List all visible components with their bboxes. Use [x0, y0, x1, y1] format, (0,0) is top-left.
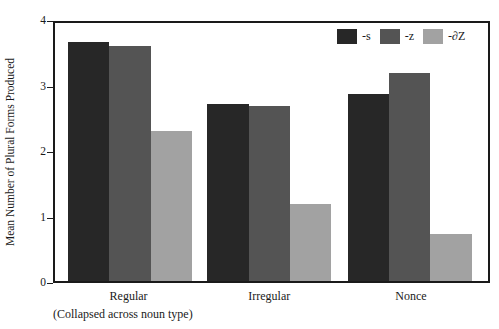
x-tick-label: Nonce [348, 288, 473, 304]
y-axis-tick-labels: 01234 [24, 0, 46, 329]
y-tick-label: 4 [26, 15, 46, 27]
y-tick-label: 0 [26, 277, 46, 289]
bar [430, 234, 471, 281]
bar-chart: Mean Number of Plural Forms Produced 012… [0, 0, 499, 329]
bar-group [348, 23, 472, 281]
bar [68, 42, 109, 281]
bar [207, 104, 248, 281]
y-axis-title: Mean Number of Plural Forms Produced [2, 21, 20, 283]
legend-item: -s [337, 29, 371, 44]
legend-label: -∂Z [448, 29, 465, 44]
bar-group [207, 23, 331, 281]
bar-group [68, 23, 192, 281]
y-tick-label: 3 [26, 81, 46, 93]
y-tick-mark [47, 87, 53, 88]
bar [109, 46, 150, 281]
legend-label: -s [362, 29, 371, 44]
y-tick-mark [47, 152, 53, 153]
x-axis-note: (Collapsed across noun type) [53, 306, 193, 322]
bar [151, 131, 192, 281]
bar [389, 73, 430, 281]
bar [249, 106, 290, 281]
legend-swatch [380, 29, 400, 44]
plot-area [53, 21, 490, 283]
y-axis-title-text: Mean Number of Plural Forms Produced [5, 58, 17, 246]
x-axis-tick-labels: RegularIrregularNonce [53, 288, 490, 306]
legend-item: -z [380, 29, 414, 44]
legend-item: -∂Z [423, 29, 465, 44]
legend-swatch [337, 29, 357, 44]
chart-legend: -s-z-∂Z [337, 26, 474, 46]
bar [290, 204, 331, 281]
bar [348, 94, 389, 281]
y-tick-label: 2 [26, 146, 46, 158]
x-tick-label: Irregular [207, 288, 332, 304]
bars-container [55, 23, 488, 281]
y-tick-mark [47, 21, 53, 22]
legend-swatch [423, 29, 443, 44]
x-tick-label: Regular [66, 288, 191, 304]
legend-label: -z [405, 29, 414, 44]
y-tick-label: 1 [26, 212, 46, 224]
y-tick-mark [47, 283, 53, 284]
y-tick-mark [47, 218, 53, 219]
